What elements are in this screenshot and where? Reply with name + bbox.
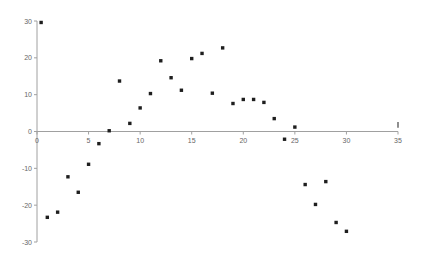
- x-tick-label: 30: [343, 137, 351, 144]
- x-tick-label: 25: [291, 137, 299, 144]
- y-tick-label: 0: [28, 128, 32, 135]
- data-point: [118, 79, 121, 82]
- data-point: [108, 129, 111, 132]
- data-point: [39, 21, 42, 24]
- data-point: [252, 98, 255, 101]
- data-point: [345, 230, 348, 233]
- data-point: [190, 57, 193, 60]
- data-point: [46, 216, 49, 219]
- y-tick-label: 30: [24, 18, 32, 25]
- data-point: [211, 91, 214, 94]
- data-point: [231, 102, 234, 105]
- data-point: [56, 210, 59, 213]
- x-tick-label: 35: [394, 137, 402, 144]
- y-axis: -30-20-100102030: [22, 18, 37, 246]
- data-point: [149, 92, 152, 95]
- x-axis: 05101520253035: [35, 132, 402, 144]
- data-point: [138, 106, 141, 109]
- x-tick-label: 5: [87, 137, 91, 144]
- x-tick-label: 15: [188, 137, 196, 144]
- data-point: [293, 125, 296, 128]
- data-point: [221, 46, 224, 49]
- data-point: [334, 221, 337, 224]
- data-point: [314, 203, 317, 206]
- x-tick-label: 20: [239, 137, 247, 144]
- data-point: [180, 89, 183, 92]
- data-point: [77, 191, 80, 194]
- data-points: [39, 21, 348, 233]
- x-tick-label: 0: [35, 137, 39, 144]
- y-tick-label: -10: [22, 165, 32, 172]
- data-point: [303, 183, 306, 186]
- data-point: [169, 76, 172, 79]
- data-point: [128, 122, 131, 125]
- data-point: [66, 175, 69, 178]
- data-point: [262, 101, 265, 104]
- data-point: [87, 163, 90, 166]
- x-tick-label: 10: [136, 137, 144, 144]
- data-point: [242, 98, 245, 101]
- y-tick-label: 20: [24, 54, 32, 61]
- y-tick-label: -20: [22, 202, 32, 209]
- data-point: [200, 52, 203, 55]
- scatter-chart: -30-20-100102030 05101520253035: [0, 0, 425, 262]
- data-point: [283, 138, 286, 141]
- data-point: [159, 59, 162, 62]
- data-point: [324, 180, 327, 183]
- y-tick-label: -30: [22, 239, 32, 246]
- y-tick-label: 10: [24, 91, 32, 98]
- data-point: [97, 142, 100, 145]
- data-point: [273, 117, 276, 120]
